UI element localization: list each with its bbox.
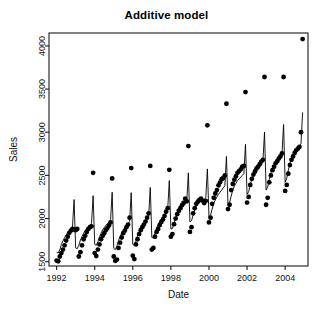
y-tick-label: 3000 (37, 122, 47, 142)
data-point (224, 101, 229, 106)
data-point (245, 200, 250, 205)
y-tick-label: 1500 (37, 252, 47, 272)
data-point (222, 173, 227, 178)
data-point (281, 75, 286, 80)
data-point (89, 224, 94, 229)
data-point (75, 226, 80, 231)
data-point (261, 157, 266, 162)
data-point (173, 216, 178, 221)
data-point (170, 232, 175, 237)
data-point (297, 145, 302, 150)
data-point (268, 173, 273, 178)
data-point (97, 242, 102, 247)
data-point (286, 171, 291, 176)
data-point (264, 202, 269, 207)
data-point (186, 144, 191, 149)
data-point (95, 247, 100, 252)
data-point (241, 164, 246, 169)
data-point (167, 167, 172, 172)
data-point (226, 207, 231, 212)
data-point (208, 215, 213, 220)
data-point (246, 195, 251, 200)
axis-labels-layer: 1500200025003000350040001992199419961998… (8, 36, 295, 300)
data-point (76, 254, 81, 259)
data-point (243, 90, 248, 95)
data-point (249, 176, 254, 181)
data-point (119, 235, 124, 240)
data-point (184, 199, 189, 204)
data-point (165, 206, 170, 211)
y-tick-label: 2000 (37, 209, 47, 229)
data-point (135, 237, 140, 242)
data-point (127, 215, 132, 220)
data-point (267, 180, 272, 185)
data-point (248, 182, 253, 187)
data-point (172, 222, 177, 227)
data-point (162, 214, 167, 219)
x-tick-label: 1994 (85, 273, 105, 283)
y-tick-label: 3500 (37, 79, 47, 99)
data-point (300, 37, 305, 42)
data-point (205, 123, 210, 128)
data-point (227, 202, 232, 207)
data-point (192, 206, 197, 211)
data-point (145, 215, 150, 220)
y-tick-label: 2500 (37, 165, 47, 185)
data-point (191, 211, 196, 216)
data-point (126, 222, 131, 227)
x-tick-label: 1992 (47, 273, 67, 283)
data-point (61, 247, 66, 252)
data-point (151, 245, 156, 250)
data-point (229, 188, 234, 193)
observed-points-layer (54, 37, 305, 264)
data-point (80, 243, 85, 248)
data-point (110, 176, 115, 181)
data-point (132, 257, 137, 262)
data-point (108, 220, 113, 225)
data-point (56, 259, 61, 264)
data-point (91, 170, 96, 175)
fitted-line-layer (57, 112, 303, 253)
data-point (146, 211, 151, 216)
x-tick-label: 2004 (275, 273, 295, 283)
fitted-line (57, 112, 303, 253)
y-axis-label: Sales (8, 137, 19, 162)
data-point (115, 257, 120, 262)
data-point (215, 188, 220, 193)
data-point (288, 163, 293, 168)
data-point (148, 164, 153, 169)
data-point (280, 151, 285, 156)
data-point (62, 243, 67, 248)
data-point (94, 254, 99, 259)
x-tick-label: 1998 (161, 273, 181, 283)
y-tick-label: 4000 (37, 36, 47, 56)
data-point (284, 182, 289, 187)
data-point (207, 220, 212, 225)
x-tick-label: 2002 (237, 273, 257, 283)
data-point (265, 195, 270, 200)
x-tick-label: 1996 (123, 273, 143, 283)
data-point (230, 182, 235, 187)
data-point (262, 75, 267, 80)
data-point (299, 130, 304, 135)
x-axis-label: Date (168, 289, 190, 300)
data-point (188, 230, 193, 235)
data-point (78, 250, 83, 255)
data-point (211, 195, 216, 200)
data-point (153, 234, 158, 239)
data-point (283, 189, 288, 194)
x-tick-label: 2000 (199, 273, 219, 283)
plot-canvas: 1500200025003000350040001992199419961998… (0, 0, 333, 316)
data-point (129, 166, 134, 171)
data-point (116, 245, 121, 250)
data-point (210, 201, 215, 206)
data-point (189, 225, 194, 230)
data-point (203, 198, 208, 203)
data-point (118, 240, 123, 245)
data-point (134, 242, 139, 247)
chart-figure: Additive model 1500200025003000350040001… (0, 0, 333, 316)
